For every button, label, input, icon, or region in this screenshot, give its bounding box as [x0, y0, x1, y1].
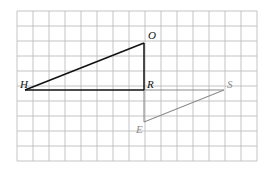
- label-r: R: [146, 78, 154, 90]
- triangle-hor: [25, 43, 144, 90]
- label-o: O: [148, 29, 156, 41]
- grid: [17, 11, 257, 161]
- label-h: H: [19, 78, 29, 90]
- diagram-figure: O H R S E: [0, 0, 265, 181]
- triangle-ser: [144, 90, 224, 122]
- segment-ho: [25, 43, 144, 90]
- segment-se: [144, 90, 224, 122]
- label-e: E: [135, 123, 143, 135]
- label-s: S: [227, 78, 233, 90]
